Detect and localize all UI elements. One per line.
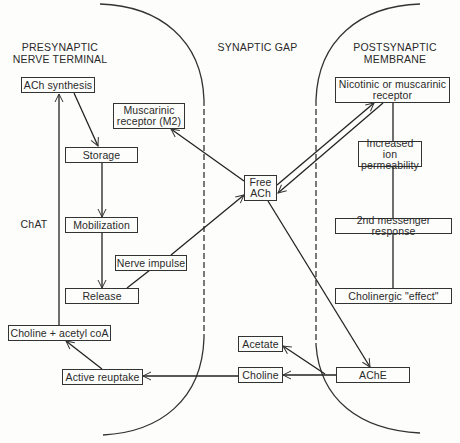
node-free-ach: Free ACh: [244, 175, 277, 201]
node-mobilization: Mobilization: [65, 217, 138, 233]
node-ach-synthesis: ACh synthesis: [21, 77, 95, 93]
node-nicotinic-muscarinic-receptor: Nicotinic or muscarinic receptor: [335, 77, 450, 103]
region-label-presynaptic: PRESYNAPTIC NERVE TERMINAL: [10, 42, 110, 65]
postsynaptic-membrane-bottom: [316, 345, 420, 433]
node-release: Release: [65, 288, 139, 304]
node-active-reuptake: Active reuptake: [62, 369, 143, 385]
region-label-synaptic-gap: SYNAPTIC GAP: [210, 42, 305, 54]
node-ache: AChE: [336, 367, 410, 383]
cholinergic-synapse-diagram: PRESYNAPTIC NERVE TERMINAL SYNAPTIC GAP …: [0, 0, 460, 443]
node-acetate: Acetate: [238, 336, 283, 352]
region-label-postsynaptic: POSTSYNAPTIC MEMBRANE: [345, 42, 445, 65]
presynaptic-membrane-top: [100, 4, 204, 100]
presynaptic-membrane-bottom: [103, 338, 204, 435]
node-nerve-impulse: Nerve impulse: [115, 255, 187, 271]
node-choline: Choline: [238, 367, 283, 383]
node-storage: Storage: [65, 147, 138, 163]
node-increased-ion-permeability: Increased ion permeability: [358, 141, 422, 167]
chat-enzyme-label: ChAT: [18, 219, 50, 231]
node-choline-acetyl-coa: Choline + acetyl coA: [8, 325, 111, 341]
node-second-messenger: 2nd messenger response: [335, 218, 452, 234]
node-muscarinic-m2: Muscarinic receptor (M2): [113, 103, 185, 129]
node-cholinergic-effect: Cholinergic "effect": [335, 288, 452, 304]
